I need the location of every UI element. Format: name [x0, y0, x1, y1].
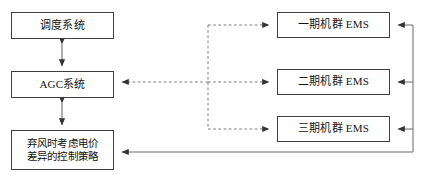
node-ems-phase-3[interactable]: 三期机群 EMS [277, 116, 390, 142]
node-dispatch-system[interactable]: 调度系统 [11, 12, 114, 39]
node-agc-system[interactable]: AGC系统 [11, 71, 114, 98]
node-ems-phase-2[interactable]: 二期机群 EMS [277, 69, 390, 95]
node-agc-system-label: AGC系统 [39, 78, 85, 92]
node-dispatch-system-label: 调度系统 [40, 19, 85, 33]
node-ems-phase-1-label: 一期机群 EMS [298, 18, 369, 32]
node-control-strategy[interactable]: 弃风时考虑电价 差异的控制策略 [11, 130, 114, 170]
node-ems-phase-2-label: 二期机群 EMS [298, 75, 369, 89]
node-ems-phase-3-label: 三期机群 EMS [298, 122, 369, 136]
node-ems-phase-1[interactable]: 一期机群 EMS [277, 12, 390, 38]
node-control-strategy-label: 弃风时考虑电价 差异的控制策略 [27, 137, 98, 163]
diagram-canvas: 调度系统 AGC系统 弃风时考虑电价 差异的控制策略 一期机群 EMS 二期机群… [0, 0, 425, 175]
